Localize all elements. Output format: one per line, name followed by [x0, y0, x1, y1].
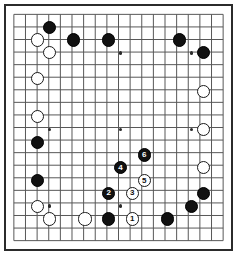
stone-move-4[interactable]: 4 — [114, 161, 127, 174]
stone-black[interactable] — [197, 187, 210, 200]
stone-move-3[interactable]: 3 — [126, 187, 139, 200]
stone-white[interactable] — [78, 212, 91, 225]
move-number-label: 2 — [103, 188, 114, 199]
hoshi-point — [119, 51, 122, 54]
move-number-label: 4 — [115, 162, 126, 173]
stone-black[interactable] — [102, 33, 115, 46]
stone-white[interactable] — [197, 85, 210, 98]
stone-white[interactable] — [43, 212, 56, 225]
stone-white[interactable] — [197, 123, 210, 136]
move-number-label: 6 — [139, 149, 150, 160]
stone-white[interactable] — [31, 200, 44, 213]
hoshi-point — [48, 204, 51, 207]
stone-black[interactable] — [161, 212, 174, 225]
stone-black[interactable] — [43, 21, 56, 34]
stone-black[interactable] — [67, 33, 80, 46]
stone-black[interactable] — [185, 200, 198, 213]
stone-move-6[interactable]: 6 — [138, 148, 151, 161]
stone-black[interactable] — [31, 136, 44, 149]
go-board[interactable]: 645231 — [4, 4, 233, 251]
stone-move-5[interactable]: 5 — [138, 174, 151, 187]
stone-move-2[interactable]: 2 — [102, 187, 115, 200]
hoshi-point — [119, 204, 122, 207]
go-diagram: 645231 — [0, 0, 249, 264]
move-number-label: 3 — [127, 188, 138, 199]
move-number-label: 5 — [139, 175, 150, 186]
stone-move-1[interactable]: 1 — [126, 212, 139, 225]
move-number-label: 1 — [127, 213, 138, 224]
stone-black[interactable] — [102, 212, 115, 225]
hoshi-point — [190, 51, 193, 54]
stone-black[interactable] — [173, 33, 186, 46]
stone-white[interactable] — [31, 33, 44, 46]
